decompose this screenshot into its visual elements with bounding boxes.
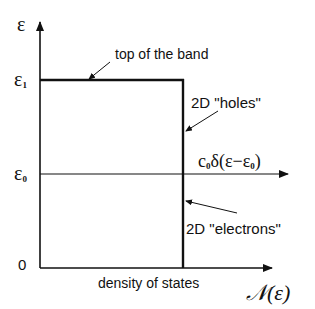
dos-diagram: ε ε1 ε0 0 top of the band 2D "holes" c0δ…: [0, 0, 315, 309]
x-axis-caption: density of states: [98, 276, 199, 290]
holes-pointer: [186, 111, 218, 131]
x-axis-label: 𝒩(ε): [246, 282, 290, 304]
top-of-band-label: top of the band: [115, 47, 208, 61]
epsilon-0-label: ε0: [14, 163, 27, 184]
y-axis-label: ε: [17, 14, 25, 34]
electrons-label: 2D "electrons": [186, 221, 281, 236]
delta-function-label: c0δ(ε−ε0): [198, 152, 261, 171]
origin-label: 0: [18, 257, 26, 272]
top-of-band-pointer: [89, 62, 110, 79]
electrons-pointer: [186, 201, 237, 213]
holes-label: 2D "holes": [191, 95, 261, 110]
epsilon-1-label: ε1: [14, 69, 27, 90]
